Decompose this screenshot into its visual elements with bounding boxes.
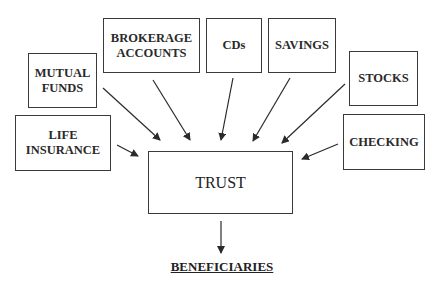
node-label: SAVINGS — [275, 38, 329, 53]
arrow-life-insurance — [117, 145, 138, 156]
node-label: BROKERAGE ACCOUNTS — [111, 31, 192, 61]
node-savings: SAVINGS — [268, 18, 336, 73]
node-label: MUTUAL FUNDS — [35, 66, 91, 96]
node-label: CHECKING — [349, 135, 418, 150]
node-mutual-funds: MUTUAL FUNDS — [28, 53, 97, 108]
arrow-checking — [302, 144, 338, 159]
node-brokerage-accounts: BROKERAGE ACCOUNTS — [103, 18, 200, 73]
node-label: TRUST — [195, 173, 246, 192]
node-beneficiaries: BENEFICIARIES — [160, 259, 284, 275]
node-label: LIFE INSURANCE — [26, 128, 100, 158]
arrow-savings — [253, 78, 290, 141]
arrow-cds — [221, 78, 233, 140]
node-life-insurance: LIFE INSURANCE — [15, 115, 111, 171]
node-stocks: STOCKS — [349, 51, 418, 106]
node-trust: TRUST — [148, 151, 293, 214]
node-label: CDs — [223, 38, 246, 53]
node-checking: CHECKING — [343, 114, 425, 170]
arrow-stocks — [282, 84, 345, 143]
arrow-brokerage — [153, 80, 190, 140]
node-label: STOCKS — [358, 71, 409, 86]
arrow-mutual-funds — [103, 88, 160, 140]
node-cds: CDs — [206, 18, 262, 73]
